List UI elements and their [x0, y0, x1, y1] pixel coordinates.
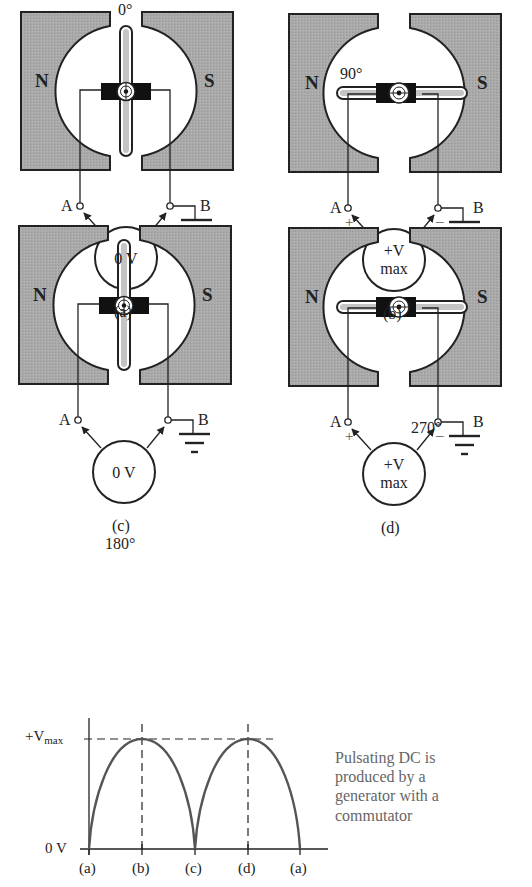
panel-b-voltmeter-reading: +V max	[364, 242, 424, 279]
panel-c-terminal-b: B	[198, 412, 209, 428]
panel-c-angle-label: 180°	[105, 536, 135, 552]
panel-b-terminal-a: A	[330, 200, 342, 216]
y-axis-max-label: +Vmax	[25, 729, 63, 746]
panel-b-meter-line1: +V	[364, 242, 424, 260]
panel-d-voltmeter-reading: +V max	[364, 456, 424, 493]
panel-c-south-pole-label: S	[202, 285, 213, 304]
panel-a-caption: (a)	[114, 304, 132, 320]
panel-a-north-pole-label: N	[35, 71, 49, 90]
panel-d-positive-sign: +	[345, 429, 353, 444]
panel-b-south-pole-label: S	[477, 73, 488, 92]
panel-d-meter-line1: +V	[364, 456, 424, 474]
panel-b-angle-label: 90°	[340, 66, 362, 82]
panel-d-meter-line2: max	[364, 474, 424, 492]
panel-d-south-pole-label: S	[477, 287, 488, 306]
waveform-chart	[80, 718, 328, 855]
panel-b-terminal-b: B	[473, 200, 484, 216]
panel-c-voltmeter-reading: 0 V	[94, 464, 154, 482]
panel-b-meter-line2: max	[364, 260, 424, 278]
panel-b-negative-sign: –	[436, 214, 444, 229]
panel-d-negative-sign: –	[436, 428, 444, 443]
panel-b-caption: (b)	[383, 306, 402, 322]
y-axis-zero-label: 0 V	[45, 841, 67, 856]
panel-c-caption: (c)	[112, 518, 130, 534]
x-tick-label-a-start: (a)	[79, 861, 96, 876]
panel-a-south-pole-label: S	[204, 71, 215, 90]
pulsating-dc-note: Pulsating DC is produced by a generator …	[335, 748, 465, 825]
panel-a-voltmeter-reading: 0 V	[96, 250, 156, 268]
y-axis-max-text: +V	[25, 728, 44, 744]
panel-a-meter-line1: 0 V	[96, 250, 156, 268]
panel-a-terminal-b: B	[200, 198, 211, 214]
panel-d-terminal-b: B	[473, 414, 484, 430]
pulsating-dc-waveform	[89, 739, 300, 849]
panel-d-caption: (d)	[381, 520, 400, 536]
x-tick-label-d: (d)	[238, 861, 256, 876]
x-tick-label-a-end: (a)	[290, 861, 307, 876]
panel-a-angle-label: 0°	[118, 2, 132, 18]
panel-c-north-pole-label: N	[33, 285, 47, 304]
x-tick-label-b: (b)	[132, 861, 150, 876]
panel-d-terminal-a: A	[330, 414, 342, 430]
panel-b-positive-sign: +	[345, 215, 353, 230]
y-axis-max-subscript: max	[44, 734, 63, 746]
panel-c-meter-line1: 0 V	[94, 464, 154, 482]
panel-d-north-pole-label: N	[305, 287, 319, 306]
x-tick-label-c: (c)	[185, 861, 202, 876]
panel-a-terminal-a: A	[61, 198, 73, 214]
panel-b-north-pole-label: N	[305, 73, 319, 92]
panel-c-terminal-a: A	[59, 412, 71, 428]
